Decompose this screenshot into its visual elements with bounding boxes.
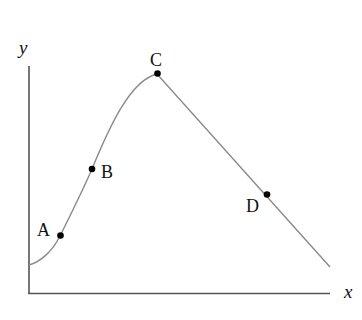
function-graph-diagram: y x A B C D <box>0 0 362 320</box>
point-d-label: D <box>246 196 259 216</box>
point-c-marker <box>154 70 161 77</box>
point-b-label: B <box>101 162 113 182</box>
y-axis-label: y <box>17 37 28 58</box>
point-d-marker <box>264 191 271 198</box>
x-axis-label: x <box>343 281 353 302</box>
point-a-marker <box>57 232 64 239</box>
point-a-label: A <box>37 220 50 240</box>
point-c-label: C <box>150 50 162 70</box>
function-curve <box>29 74 330 267</box>
point-b-marker <box>89 166 96 173</box>
